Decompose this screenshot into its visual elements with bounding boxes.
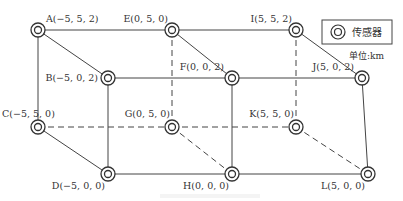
hidden-edge-KL	[296, 127, 368, 174]
edges	[38, 30, 368, 174]
edge-JL	[362, 78, 368, 174]
node-label-J: J(5, 0, 2)	[312, 61, 354, 72]
sensor-node-E: E(0, 5, 0)	[123, 13, 179, 37]
node-label-C: C(−5, 5, 0)	[2, 108, 55, 119]
node-label-K: K(5, 5, 0)	[249, 108, 294, 119]
sensor-network-diagram: A(−5, 5, 2)E(0, 5, 0)I(5, 5, 2)B(−5, 0, …	[0, 0, 403, 201]
sensor-node-G: G(0, 5, 0)	[125, 108, 179, 134]
sensor-icon	[331, 25, 345, 39]
sensor-node-I: I(5, 5, 2)	[251, 13, 303, 37]
sensor-node-K: K(5, 5, 0)	[249, 108, 303, 134]
sensor-node-F: F(0, 0, 2)	[180, 61, 239, 85]
node-label-G: G(0, 5, 0)	[125, 108, 170, 119]
unit-label: 单位:km	[349, 50, 384, 61]
node-label-B: B(−5, 0, 2)	[45, 72, 98, 83]
sensor-node-L: L(5, 0, 0)	[321, 167, 375, 191]
node-label-D: D(−5, 0, 0)	[52, 180, 105, 191]
edge-CD	[38, 127, 108, 174]
sensor-node-D: D(−5, 0, 0)	[52, 167, 115, 191]
node-label-H: H(0, 0, 0)	[183, 180, 229, 191]
sensor-node-H: H(0, 0, 0)	[183, 167, 239, 191]
sensor-node-B: B(−5, 0, 2)	[45, 71, 115, 85]
node-label-F: F(0, 0, 2)	[180, 61, 224, 72]
nodes: A(−5, 5, 2)E(0, 5, 0)I(5, 5, 2)B(−5, 0, …	[2, 13, 375, 191]
hidden-edge-GH	[172, 127, 232, 174]
legend-label: 传感器	[352, 26, 382, 38]
node-label-A: A(−5, 5, 2)	[45, 13, 98, 24]
legend: 传感器 单位:km	[322, 20, 392, 61]
sensor-node-C: C(−5, 5, 0)	[2, 108, 55, 134]
edge-AB	[38, 30, 108, 78]
caption-faint	[160, 194, 260, 198]
node-label-L: L(5, 0, 0)	[321, 180, 365, 191]
node-label-I: I(5, 5, 2)	[251, 13, 292, 24]
sensor-node-A: A(−5, 5, 2)	[31, 13, 98, 37]
node-label-E: E(0, 5, 0)	[123, 13, 168, 24]
sensor-node-J: J(5, 0, 2)	[312, 61, 369, 85]
